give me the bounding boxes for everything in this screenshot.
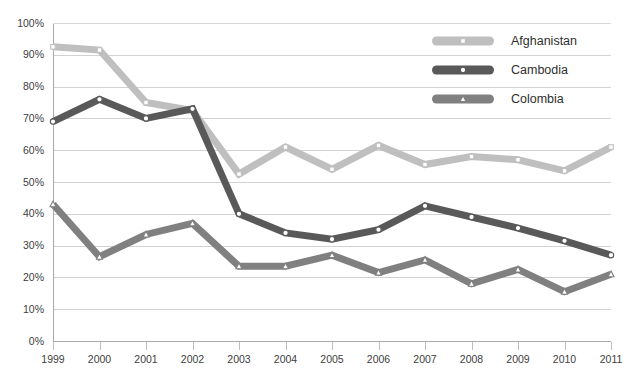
data-point-marker-cambodia-2009 [515, 225, 520, 230]
y-tick-label: 100% [17, 17, 44, 29]
data-point-marker-cambodia-2002 [190, 106, 195, 111]
legend-entry-cambodia[interactable]: Cambodia [432, 63, 568, 77]
data-point-marker-afghanistan-2011 [609, 145, 614, 150]
data-point-marker-afghanistan-2007 [423, 162, 428, 167]
line-chart: 0%10%20%30%40%50%60%70%80%90%100% 199920… [0, 0, 640, 387]
legend-entry-colombia[interactable]: Colombia [432, 92, 564, 106]
y-tick-label: 90% [23, 48, 44, 60]
data-point-marker-afghanistan-2010 [562, 169, 567, 174]
x-tick-label: 2003 [227, 353, 251, 365]
y-tick-label: 70% [23, 112, 44, 124]
data-point-marker-cambodia-2010 [562, 238, 567, 243]
legend-label: Colombia [511, 92, 564, 106]
x-axis-tick-labels: 1999200020012002200320042005200620072008… [41, 353, 622, 365]
series-cambodia [50, 97, 613, 258]
x-tick-label: 2010 [553, 353, 577, 365]
x-tick-label: 2000 [88, 353, 112, 365]
x-tick-label: 2002 [181, 353, 205, 365]
data-point-marker-afghanistan-2008 [469, 154, 474, 159]
y-tick-label: 10% [23, 303, 44, 315]
data-point-marker-afghanistan-2005 [330, 167, 335, 172]
chart-canvas: 0%10%20%30%40%50%60%70%80%90%100% 199920… [0, 0, 640, 387]
data-point-marker-legend-afghanistan [461, 39, 466, 44]
data-point-marker-afghanistan-2004 [283, 145, 288, 150]
data-point-marker-afghanistan-2000 [97, 48, 102, 53]
y-tick-label: 80% [23, 80, 44, 92]
x-tick-label: 1999 [41, 353, 65, 365]
x-tick-label: 2008 [460, 353, 484, 365]
data-point-marker-cambodia-2007 [422, 203, 427, 208]
data-point-marker-afghanistan-2003 [237, 172, 242, 177]
chart-legend: AfghanistanCambodiaColombia [432, 34, 577, 106]
x-tick-label: 2001 [134, 353, 158, 365]
data-point-marker-cambodia-1999 [50, 119, 55, 124]
data-series [50, 45, 614, 295]
x-tick-label: 2005 [320, 353, 344, 365]
data-point-marker-cambodia-2003 [236, 211, 241, 216]
y-tick-label: 20% [23, 271, 44, 283]
x-tick-label: 2009 [506, 353, 530, 365]
x-tick-label: 2007 [413, 353, 437, 365]
legend-label: Cambodia [511, 63, 568, 77]
legend-label: Afghanistan [511, 34, 577, 48]
data-point-marker-afghanistan-2009 [516, 157, 521, 162]
data-point-marker-cambodia-2004 [283, 230, 288, 235]
data-point-marker-cambodia-2001 [143, 116, 148, 121]
data-point-marker-afghanistan-2006 [376, 143, 381, 148]
y-tick-label: 50% [23, 176, 44, 188]
data-point-marker-afghanistan-1999 [51, 45, 56, 50]
legend-entry-afghanistan[interactable]: Afghanistan [432, 34, 577, 48]
x-tick-label: 2011 [600, 353, 623, 365]
y-tick-label: 40% [23, 207, 44, 219]
series-line-cambodia [53, 99, 611, 255]
data-point-marker-cambodia-2008 [469, 214, 474, 219]
data-point-marker-cambodia-2011 [608, 252, 613, 257]
x-tick-label: 2006 [367, 353, 391, 365]
series-line-colombia [53, 204, 611, 291]
y-tick-label: 30% [23, 239, 44, 251]
y-tick-label: 60% [23, 144, 44, 156]
data-point-marker-colombia-1999 [50, 201, 56, 207]
y-axis-tick-labels: 0%10%20%30%40%50%60%70%80%90%100% [17, 17, 44, 347]
series-colombia [50, 201, 614, 294]
data-point-marker-legend-cambodia [460, 67, 465, 72]
data-point-marker-cambodia-2000 [97, 97, 102, 102]
data-point-marker-afghanistan-2001 [144, 100, 149, 105]
data-point-marker-cambodia-2006 [376, 227, 381, 232]
data-point-marker-cambodia-2005 [329, 237, 334, 242]
x-tick-label: 2004 [274, 353, 298, 365]
y-tick-label: 0% [29, 335, 44, 347]
